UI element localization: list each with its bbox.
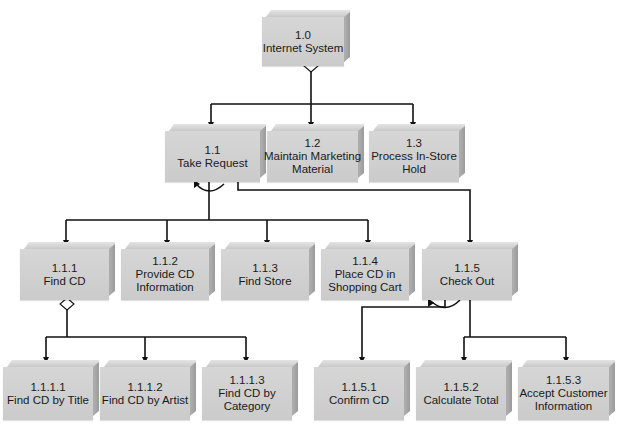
module-label: Find CD by Artist	[102, 394, 188, 407]
module-label: Find CD by Title	[7, 394, 89, 407]
module-label: Material	[292, 163, 333, 176]
module-1-1-3: 1.1.3 Find Store	[221, 242, 315, 300]
module-1-1-2: 1.1.2 Provide CD Information	[121, 242, 215, 300]
module-1-3: 1.3 Process In-Store Hold	[369, 124, 465, 182]
module-label: Take Request	[177, 157, 247, 170]
module-id: 1.2	[305, 137, 321, 150]
module-id: 1.1.5.1	[341, 381, 376, 394]
module-label: Category	[224, 400, 271, 413]
module-id: 1.1.5.3	[546, 374, 581, 387]
module-label: Internet System	[263, 42, 344, 55]
module-1-1-5-1: 1.1.5.1 Confirm CD	[314, 360, 410, 420]
module-1-1-1-1: 1.1.1.1 Find CD by Title	[3, 360, 99, 420]
module-label: Find CD by	[218, 387, 276, 400]
module-1-2: 1.2 Maintain Marketing Material	[267, 124, 364, 182]
loop-arc-1-1	[196, 184, 224, 191]
module-id: 1.3	[406, 137, 422, 150]
module-id: 1.1.1	[52, 262, 78, 275]
module-label: Process In-Store	[371, 150, 457, 163]
module-id: 1.1.1.2	[127, 381, 162, 394]
module-1-1-5-3: 1.1.5.3 Accept Customer Information	[518, 360, 615, 420]
module-label: Accept Customer	[519, 387, 607, 400]
module-id: 1.1.1.1	[30, 381, 65, 394]
module-1-1-1-2: 1.1.1.2 Find CD by Artist	[100, 360, 196, 420]
module-label: Place CD in	[335, 268, 396, 281]
module-id: 1.0	[295, 29, 311, 42]
module-label: Confirm CD	[329, 394, 389, 407]
module-1-0: 1.0 Internet System	[262, 10, 350, 66]
module-id: 1.1.5.2	[443, 381, 478, 394]
module-1-1-5-2: 1.1.5.2 Calculate Total	[416, 360, 512, 420]
module-id: 1.1.1.3	[229, 374, 264, 387]
module-label: Information	[136, 281, 194, 294]
module-label: Hold	[402, 163, 426, 176]
module-label: Information	[535, 400, 593, 413]
structure-chart: 1.0 Internet System 1.1 Take Request 1.2…	[0, 0, 623, 428]
module-1-1-4: 1.1.4 Place CD in Shopping Cart	[321, 242, 415, 300]
module-id: 1.1.5	[454, 262, 480, 275]
module-id: 1.1.3	[252, 262, 278, 275]
module-label: Find CD	[43, 275, 85, 288]
module-label: Check Out	[440, 275, 494, 288]
module-1-1: 1.1 Take Request	[165, 124, 266, 182]
module-1-1-1: 1.1.1 Find CD	[20, 242, 115, 300]
module-label: Maintain Marketing	[264, 150, 361, 163]
module-id: 1.1	[205, 144, 221, 157]
module-1-1-5: 1.1.5 Check Out	[422, 242, 518, 300]
module-label: Calculate Total	[423, 394, 498, 407]
module-label: Shopping Cart	[328, 281, 402, 294]
module-id: 1.1.2	[152, 255, 178, 268]
module-1-1-1-3: 1.1.1.3 Find CD by Category	[202, 360, 298, 420]
module-id: 1.1.4	[352, 255, 378, 268]
module-label: Provide CD	[136, 268, 195, 281]
module-label: Find Store	[238, 275, 291, 288]
